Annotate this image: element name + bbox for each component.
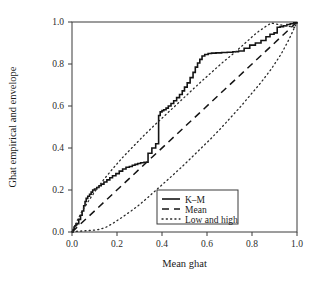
y-tick-label: 0.8	[52, 59, 64, 69]
x-tick-label: 0.8	[246, 239, 258, 249]
y-tick-label: 0.6	[52, 101, 64, 111]
x-tick-label: 0.0	[66, 239, 78, 249]
chart-canvas: 0.00.20.40.60.81.0 0.00.20.40.60.81.0 Me…	[0, 0, 315, 284]
y-axis-ticks: 0.00.20.40.60.81.0	[52, 17, 72, 237]
x-axis-title: Mean ghat	[162, 258, 207, 269]
x-tick-label: 0.4	[156, 239, 168, 249]
x-axis-ticks: 0.00.20.40.60.81.0	[66, 232, 303, 249]
chart-legend: K–M Mean Low and high	[157, 190, 238, 225]
y-tick-label: 0.4	[52, 143, 64, 153]
legend-label-mean: Mean	[185, 205, 207, 215]
y-tick-label: 0.2	[52, 185, 64, 195]
legend-label-km: K–M	[185, 195, 206, 205]
chart-figure: 0.00.20.40.60.81.0 0.00.20.40.60.81.0 Me…	[0, 0, 315, 284]
x-tick-label: 0.6	[201, 239, 213, 249]
x-tick-label: 0.2	[111, 239, 123, 249]
legend-label-envelope: Low and high	[185, 215, 238, 225]
y-tick-label: 0.0	[52, 227, 64, 237]
y-tick-label: 1.0	[52, 17, 64, 27]
y-axis-title: Ghat empirical and envelope	[7, 66, 18, 187]
x-tick-label: 1.0	[291, 239, 303, 249]
